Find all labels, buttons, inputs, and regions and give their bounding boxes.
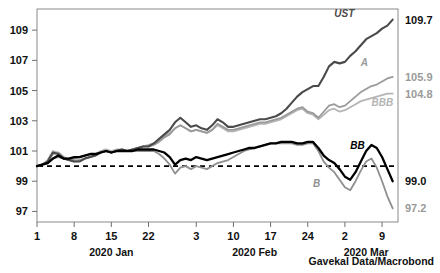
y-tick-label: 103 bbox=[10, 115, 28, 127]
x-tick-label: 22 bbox=[142, 230, 154, 242]
chart-container: 9799101103105107109 USTABBBBBB 109.7105.… bbox=[0, 0, 440, 273]
end-value-b: 97.2 bbox=[405, 202, 426, 214]
series-line-ust bbox=[37, 20, 393, 167]
plot-border bbox=[37, 9, 398, 222]
y-tick-label: 97 bbox=[16, 205, 28, 217]
y-tick-label: 101 bbox=[10, 145, 28, 157]
series-label-a: A bbox=[360, 57, 368, 68]
end-value-ust: 109.7 bbox=[405, 14, 433, 26]
x-tick-label: 24 bbox=[302, 230, 315, 242]
y-tick-label: 109 bbox=[10, 24, 28, 36]
x-tick-label: 15 bbox=[105, 230, 117, 242]
x-tick-label: 10 bbox=[227, 230, 239, 242]
y-tick-label: 105 bbox=[10, 85, 28, 97]
series-label-b: B bbox=[313, 178, 320, 189]
month-group-label: 2020 Feb bbox=[232, 246, 277, 258]
plot-frame bbox=[37, 9, 398, 222]
source-attribution: Gavekal Data/Macrobond bbox=[309, 255, 434, 267]
series-label-bb: BB bbox=[350, 140, 364, 151]
x-tick-label: 8 bbox=[71, 230, 77, 242]
x-tick-label: 9 bbox=[379, 230, 385, 242]
y-axis-labels: 9799101103105107109 bbox=[10, 24, 28, 217]
month-group-label: 2020 Jan bbox=[89, 246, 133, 258]
data-series bbox=[37, 20, 393, 209]
y-tick-label: 99 bbox=[16, 175, 28, 187]
x-tick-label: 17 bbox=[264, 230, 276, 242]
x-tick-label: 1 bbox=[34, 230, 40, 242]
end-value-labels: 109.7105.9104.899.097.2 bbox=[405, 14, 433, 215]
series-line-bb bbox=[37, 142, 393, 181]
x-tick-label: 2 bbox=[342, 230, 348, 242]
series-line-bbb bbox=[37, 94, 393, 167]
end-value-a: 105.9 bbox=[405, 71, 433, 83]
line-chart: 9799101103105107109 USTABBBBBB 109.7105.… bbox=[0, 0, 440, 273]
x-axis-labels: 181522310172429 bbox=[34, 230, 385, 242]
end-value-bbb: 104.8 bbox=[405, 88, 433, 100]
end-value-bb: 99.0 bbox=[405, 175, 426, 187]
series-label-ust: UST bbox=[334, 8, 355, 19]
series-label-bbb: BBB bbox=[371, 97, 393, 108]
x-tick-label: 3 bbox=[193, 230, 199, 242]
y-tick-label: 107 bbox=[10, 54, 28, 66]
